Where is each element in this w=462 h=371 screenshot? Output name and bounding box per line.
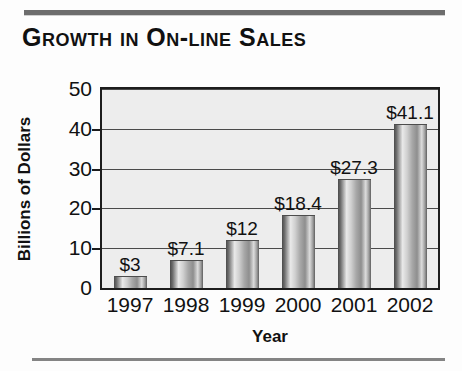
chart-title: Growth in On-line Sales bbox=[22, 23, 306, 52]
bar-value-label: $18.4 bbox=[263, 194, 333, 213]
y-axis-tick-label: 20 bbox=[50, 197, 92, 218]
x-axis-tick-label: 1999 bbox=[210, 294, 274, 315]
y-axis-tick-label: 10 bbox=[50, 237, 92, 258]
y-axis-tick bbox=[92, 208, 101, 210]
y-axis-tick-labels: 01020304050 bbox=[48, 87, 92, 290]
y-axis-tick-label: 40 bbox=[50, 118, 92, 139]
bar-value-label: $7.1 bbox=[151, 239, 221, 258]
bar bbox=[114, 276, 147, 288]
x-axis-tick-label: 2001 bbox=[322, 294, 386, 315]
bar-value-label: $41.1 bbox=[375, 103, 445, 122]
x-axis-tick-label: 1997 bbox=[98, 294, 162, 315]
top-divider-rule bbox=[24, 10, 445, 15]
y-axis-tick bbox=[92, 169, 101, 171]
y-axis-tick bbox=[92, 129, 101, 131]
bottom-divider-rule bbox=[32, 358, 445, 361]
y-axis-title-text: Billions of Dollars bbox=[15, 116, 35, 261]
x-axis-tick-label: 1998 bbox=[154, 294, 218, 315]
bar-value-label: $3 bbox=[95, 255, 165, 274]
bar bbox=[338, 179, 371, 288]
x-axis-title: Year bbox=[100, 327, 440, 347]
y-axis-tick bbox=[92, 248, 101, 250]
bar bbox=[170, 260, 203, 288]
x-axis-tick-label: 2002 bbox=[378, 294, 442, 315]
bar bbox=[394, 124, 427, 288]
gridline bbox=[102, 129, 438, 130]
y-axis-tick-label: 30 bbox=[50, 158, 92, 179]
x-axis-tick-labels: 199719981999200020012002 bbox=[100, 294, 440, 320]
bar bbox=[282, 215, 315, 288]
y-axis-tick-label: 50 bbox=[50, 78, 92, 99]
bar-value-label: $12 bbox=[207, 219, 277, 238]
y-axis-title: Billions of Dollars bbox=[10, 87, 40, 290]
x-axis-tick-label: 2000 bbox=[266, 294, 330, 315]
chart-figure: Growth in On-line Sales Billions of Doll… bbox=[0, 0, 462, 371]
y-axis-tick-label: 0 bbox=[50, 277, 92, 298]
gridline bbox=[102, 89, 438, 90]
bar-value-label: $27.3 bbox=[319, 158, 389, 177]
bar bbox=[226, 240, 259, 288]
